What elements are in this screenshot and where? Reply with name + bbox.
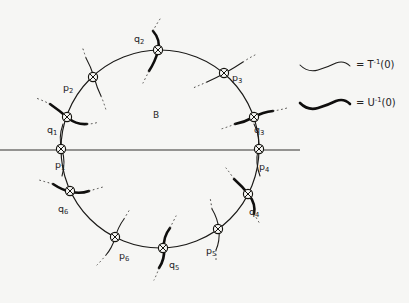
figure-page: B [0,0,409,303]
diagram-canvas: B [0,0,409,303]
node-label-p6: p6 [119,250,129,263]
node-label-p4: p4 [259,161,269,174]
legend-label-U: =U-1(0) [356,96,396,108]
node-label-p5: p5 [206,245,216,258]
legend-swatch-thin-curve [300,62,350,71]
transversal-dotted-p2-b [101,96,106,110]
node-q1[interactable] [62,112,71,121]
legend-group: =T-1(0) =U-1(0) [300,58,396,109]
transversal-dotted-q3-a [221,124,235,129]
node-labels-group: p1 q1 p2 q2 p3 q3 p4 q4 p5 q5 p6 q6 [47,33,269,272]
legend-item-T: =T-1(0) [300,58,395,71]
transversal-dotted-q6-a [39,180,53,184]
legend-swatch-thick-curve [300,100,350,109]
transversal-dotted-q6-b [89,187,103,191]
node-q5[interactable] [158,243,167,252]
legend-item-U: =U-1(0) [300,96,396,109]
region-label-b: B [153,110,159,120]
transversal-dotted-q1-b [87,122,99,124]
node-p2[interactable] [88,72,97,81]
node-label-p2: p2 [63,82,73,95]
transversal-dotted-q3-b [273,108,287,111]
node-q4[interactable] [243,189,252,198]
transversal-dotted-p3-b [243,55,255,62]
node-label-q4: q4 [249,206,259,219]
transversal-dotted-p6-a [124,209,130,219]
node-label-q6: q6 [58,203,68,216]
transversal-dotted-q1-a [36,98,50,104]
node-p3[interactable] [219,68,228,77]
node-p6[interactable] [110,232,119,241]
transversal-dotted-q5-b [154,268,159,280]
transversal-dotted-p5-a [210,197,212,209]
node-label-q5: q5 [169,259,179,272]
node-q6[interactable] [65,186,74,195]
node-p5[interactable] [213,224,222,233]
transversal-dotted-q2-b [143,71,149,83]
node-label-q3: q3 [254,124,264,137]
node-label-q1: q1 [47,124,57,137]
transversal-dotted-q5-a [170,216,176,228]
node-label-q2: q2 [134,33,144,46]
transversal-dotted-p2-a [82,46,86,58]
node-q3[interactable] [249,112,258,121]
node-q2[interactable] [153,45,162,54]
transversal-dotted-q4-a [226,168,234,179]
legend-label-T: =T-1(0) [356,58,395,70]
node-p1[interactable] [56,144,65,153]
transversal-dotted-q2-a [153,19,160,31]
transversal-dotted-p3-a [193,82,207,88]
node-p4[interactable] [254,144,263,153]
transversal-dotted-p6-b [97,255,106,265]
